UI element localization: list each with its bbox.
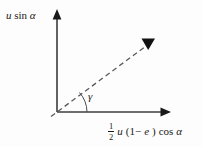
x-axis-label-cos: cos	[159, 126, 174, 137]
fraction-numerator: 1	[108, 122, 114, 131]
angle-arc	[80, 93, 88, 113]
fraction-denominator: 2	[108, 133, 114, 142]
x-axis-label-open-paren: (1−	[126, 126, 141, 137]
y-axis-arrowhead-icon	[53, 9, 62, 20]
x-axis-label-close-paren: )	[152, 126, 156, 137]
resultant-vector-dashed-line	[51, 46, 146, 117]
x-axis-label-e: e	[144, 126, 149, 137]
vector-diagram-figure: u sin α 1 2 u (1−e) cos α γ	[0, 0, 202, 147]
y-axis-label-alpha: α	[30, 9, 36, 21]
angle-label-gamma: γ	[88, 90, 92, 102]
y-axis-label-sin: sin	[14, 9, 27, 21]
one-half-fraction: 1 2	[108, 122, 114, 142]
x-axis-label-u: u	[117, 126, 123, 137]
x-axis-label-alpha: α	[176, 126, 182, 137]
x-axis-label: 1 2 u (1−e) cos α	[108, 122, 182, 142]
y-axis-label: u sin α	[6, 10, 36, 21]
x-axis-arrowhead-icon	[161, 108, 172, 117]
